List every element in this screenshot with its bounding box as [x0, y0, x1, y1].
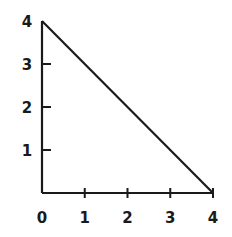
- series-line: [42, 21, 213, 193]
- y-tick-label: 2: [22, 99, 32, 117]
- y-tick-label: 1: [22, 142, 32, 160]
- y-tick-label: 3: [22, 56, 32, 74]
- data-series: [42, 21, 213, 193]
- x-tick-label: 4: [208, 209, 218, 227]
- x-tick-label: 3: [165, 209, 175, 227]
- x-tick-label: 2: [122, 209, 132, 227]
- tick-marks: [42, 64, 213, 198]
- line-chart: 012341234: [0, 0, 232, 237]
- y-tick-label: 4: [22, 13, 32, 31]
- tick-labels: 012341234: [22, 13, 218, 227]
- x-tick-label: 0: [37, 209, 47, 227]
- x-tick-label: 1: [80, 209, 90, 227]
